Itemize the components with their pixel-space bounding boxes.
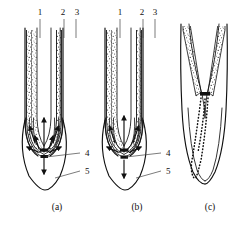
panel-b-caption: (b) (131, 202, 142, 213)
callout-label-3-panel-a: 3 (75, 7, 80, 17)
panel-a-stele-right (44, 28, 51, 146)
panel-a-quiescent-centre-mark (40, 149, 49, 152)
callout-label-4-panel-a: 4 (85, 148, 90, 158)
callout-label-3-panel-b: 3 (153, 7, 158, 17)
root-tip-diagram-figure: (a) (0, 0, 242, 227)
panel-c-cap-inner-right (205, 108, 222, 181)
panel-a: (a) (22, 28, 66, 213)
panel-c-cortex-stipple (183, 24, 225, 96)
panel-c-block-marker (200, 92, 210, 96)
panel-a-stele-left (37, 28, 44, 146)
callout-label-1-panel-b: 1 (118, 7, 123, 17)
panel-a-lower-mark (41, 155, 49, 158)
callout-label-5-panel-a: 5 (85, 166, 90, 176)
callout-label-5-panel-b: 5 (166, 166, 171, 176)
callout-leader-5-panel-b (136, 171, 161, 178)
panel-b-stele-left (117, 28, 124, 146)
callout-leader-5-panel-a (55, 171, 80, 178)
callout-label-4-panel-b: 4 (166, 148, 171, 158)
panel-b-quiescent-centre-mark (120, 149, 129, 152)
panel-c-dotted-trace-right (196, 98, 208, 178)
panel-b-stele-right (124, 28, 131, 146)
panel-b: (b) (102, 28, 146, 213)
panel-a-caption: (a) (52, 202, 63, 213)
diagram-canvas: (a) (0, 0, 242, 227)
panel-c: (c) (181, 24, 228, 213)
panel-c-caption: (c) (205, 202, 216, 213)
callout-label-2-panel-a: 2 (61, 7, 66, 17)
callout-label-2-panel-b: 2 (140, 7, 145, 17)
callout-label-1-panel-a: 1 (38, 7, 43, 17)
